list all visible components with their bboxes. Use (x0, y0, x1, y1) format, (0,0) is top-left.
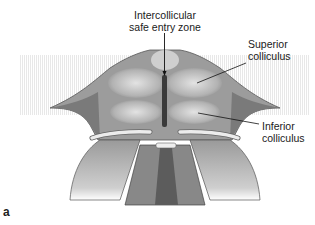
tectum-drawing (0, 0, 315, 225)
intercollicular-sulcus (162, 75, 167, 127)
label-line: Superior (248, 38, 291, 50)
right-inferior-colliculus (168, 100, 220, 124)
pineal-region (151, 50, 179, 70)
label-line: Inferior (262, 120, 305, 132)
label-line: Intercollicular (120, 9, 210, 21)
left-inferior-colliculus (110, 100, 162, 124)
label-inferior-colliculus: Inferior colliculus (262, 120, 305, 144)
label-line: colliculus (262, 132, 305, 144)
panel-letter: a (3, 205, 10, 219)
label-line: colliculus (248, 50, 291, 62)
label-superior-colliculus: Superior colliculus (248, 38, 291, 62)
frenulum (156, 143, 176, 148)
midbrain-illustration: Intercollicular safe entry zone Superior… (0, 0, 315, 225)
left-superior-colliculus (108, 68, 164, 98)
right-superior-colliculus (166, 68, 222, 98)
label-line: safe entry zone (120, 21, 210, 33)
label-intercollicular: Intercollicular safe entry zone (120, 9, 210, 33)
